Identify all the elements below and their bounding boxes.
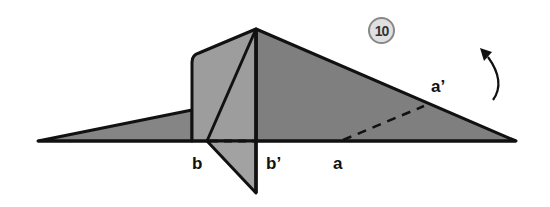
right-flap — [256, 29, 516, 141]
step-number: 10 — [375, 23, 389, 39]
step-number-badge: 10 — [368, 17, 395, 44]
label-b-prime: b’ — [266, 155, 281, 172]
origami-step-diagram — [0, 0, 550, 207]
label-b: b — [192, 155, 202, 172]
lower-flap — [207, 141, 256, 193]
label-a: a — [333, 155, 342, 172]
curved-arrow-up-icon — [488, 57, 498, 100]
label-a-prime: a’ — [431, 78, 445, 95]
front-panel — [192, 29, 256, 141]
left-flap — [38, 110, 192, 141]
